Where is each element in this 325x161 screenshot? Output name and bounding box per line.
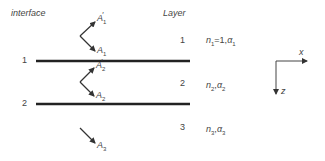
label-a3: A3 xyxy=(97,141,106,152)
layer-3-properties: n3,α3 xyxy=(206,125,225,136)
interface-label-1: 1 xyxy=(22,56,27,65)
label-a1-prime: A1′ xyxy=(97,14,108,25)
label-a2: A2 xyxy=(96,91,105,102)
interface-label-2: 2 xyxy=(22,99,27,108)
layer-number-1: 1 xyxy=(180,36,185,45)
arrow-a1-prime-icon xyxy=(80,22,95,36)
layer-header: Layer xyxy=(163,9,186,18)
layer-number-3: 3 xyxy=(180,123,185,132)
arrow-a3-icon xyxy=(80,128,95,143)
axis-x-label: x xyxy=(299,48,304,57)
arrow-a2-icon xyxy=(80,82,94,96)
label-a1: A1 xyxy=(97,46,106,57)
interface-header: interface xyxy=(11,9,46,18)
layer-number-2: 2 xyxy=(180,79,185,88)
diagram-canvas xyxy=(0,0,325,161)
layer-2-properties: n2,α2 xyxy=(206,81,225,92)
layer-1-properties: n1=1,α1 xyxy=(206,36,236,47)
arrow-a1-icon xyxy=(80,36,95,51)
label-a2-prime: A2′ xyxy=(96,61,107,72)
arrow-a2-prime-icon xyxy=(80,68,94,82)
axis-z-label: z xyxy=(281,87,286,96)
